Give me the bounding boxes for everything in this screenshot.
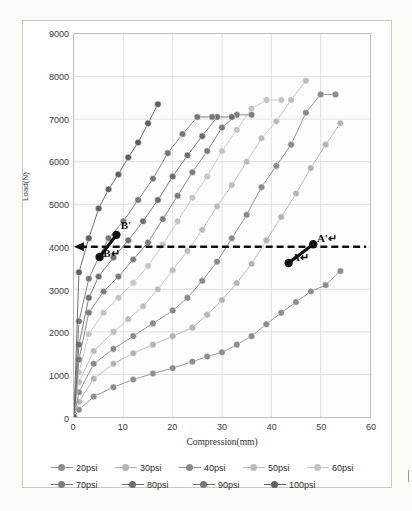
legend-marker-icon [51,480,73,490]
legend-row-2: 70psi80psi90psi100psi [51,476,371,493]
x-tick-60: 60 [351,422,391,432]
x-tick-20: 20 [152,422,192,432]
legend-marker-icon [193,480,215,490]
y-tick-2000: 2000 [25,328,69,338]
legend-label: 90psi [218,480,240,490]
y-tick-5000: 5000 [25,200,69,210]
legend-item-100psi[interactable]: 100psi [264,480,335,490]
y-tick-3000: 3000 [25,286,69,296]
scan-artifact-text [300,2,408,11]
legend-label: 80psi [147,480,169,490]
x-tick-10: 10 [103,422,143,432]
series-70psi [74,112,255,417]
y-tick-8000: 8000 [25,72,69,82]
legend-marker-icon [122,480,144,490]
annotation-A-prime: A'↵ [317,232,337,245]
series-30psi [74,120,344,417]
legend-label: 70psi [76,480,98,490]
legend-label: 30psi [140,463,162,473]
x-tick-30: 30 [202,422,242,432]
y-axis-tick-labels: 0100020003000400050006000700080009000 [23,33,69,418]
x-axis-title: Compression(mm) [73,437,371,447]
legend-marker-icon [243,463,265,473]
legend-item-30psi[interactable]: 30psi [115,463,179,473]
plot-area: A↵A'↵B↵B' [73,33,371,418]
chart-legend: 20psi30psi40psi50psi60psi70psi80psi90psi… [51,459,371,493]
legend-marker-icon [51,463,73,473]
plot-svg [74,34,370,417]
legend-marker-icon [179,463,201,473]
legend-item-60psi[interactable]: 60psi [307,463,371,473]
x-tick-0: 0 [53,422,93,432]
legend-marker-icon [307,463,329,473]
legend-marker-icon [264,480,286,490]
legend-label: 50psi [268,463,290,473]
legend-item-20psi[interactable]: 20psi [51,463,115,473]
legend-item-70psi[interactable]: 70psi [51,480,122,490]
legend-marker-icon [115,463,137,473]
y-axis-title: Load(N) [21,172,30,201]
legend-label: 60psi [332,463,354,473]
x-axis-tick-labels: 0102030405060 [73,422,371,436]
y-tick-6000: 6000 [25,157,69,167]
x-tick-50: 50 [301,422,341,432]
x-tick-40: 40 [252,422,292,432]
legend-item-40psi[interactable]: 40psi [179,463,243,473]
y-tick-4000: 4000 [25,243,69,253]
legend-item-90psi[interactable]: 90psi [193,480,264,490]
legend-label: 40psi [204,463,226,473]
gridlines [74,34,370,417]
legend-item-80psi[interactable]: 80psi [122,480,193,490]
chart-container: 0100020003000400050006000700080009000 A↵… [22,20,392,488]
annotation-B: B↵ [103,247,119,260]
series-20psi [74,268,344,417]
annotation-B-prime: B' [121,219,131,231]
page-edge-mark [408,470,409,482]
legend-item-50psi[interactable]: 50psi [243,463,307,473]
y-tick-7000: 7000 [25,115,69,125]
y-tick-9000: 9000 [25,29,69,39]
legend-label: 20psi [76,463,98,473]
annotation-A: A↵ [292,251,309,264]
y-tick-1000: 1000 [25,371,69,381]
legend-row-1: 20psi30psi40psi50psi60psi [51,459,371,476]
legend-label: 100psi [289,480,316,490]
